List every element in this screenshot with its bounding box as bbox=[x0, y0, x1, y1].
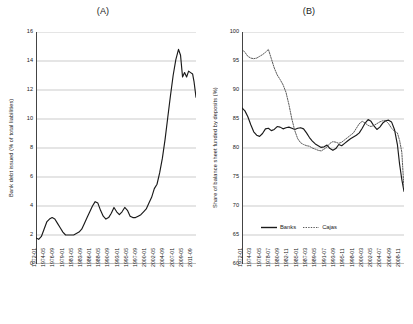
y-tick-label: 10 bbox=[20, 115, 33, 121]
x-tick-label: 1990-09 bbox=[104, 248, 110, 267]
x-tick-label: 1993-01 bbox=[114, 248, 120, 267]
x-tick-label: 2002-05 bbox=[150, 248, 156, 267]
y-tick-label: 6 bbox=[20, 173, 33, 179]
x-tick-label: 1976-09 bbox=[49, 248, 55, 267]
x-tick-label: 2007-01 bbox=[169, 248, 175, 267]
y-tick-label: 85 bbox=[226, 115, 239, 121]
x-tick-label: 1976-05 bbox=[256, 248, 262, 267]
x-tick-label: 1987-03 bbox=[302, 248, 308, 267]
x-tick-label: 2004-09 bbox=[159, 248, 165, 267]
x-tick-label: 2011-09 bbox=[187, 248, 193, 267]
x-tick-label: 1986-01 bbox=[86, 248, 92, 267]
x-tick-label: 1991-07 bbox=[321, 248, 327, 267]
x-tick-label: 1995-05 bbox=[123, 248, 129, 267]
legend-item-cajas: Cajas bbox=[303, 224, 337, 230]
panel-b-x-tick-labels: 1972-011974-031976-051978-071980-091982-… bbox=[242, 267, 404, 307]
panel-b: (B) Share of balance sheet funded by dep… bbox=[206, 0, 412, 324]
y-tick-label: 70 bbox=[226, 202, 239, 208]
panel-a-title: (A) bbox=[0, 6, 206, 16]
x-tick-label: 1997-09 bbox=[132, 248, 138, 267]
panel-b-y-axis-label: Share of balance sheet funded by deposit… bbox=[212, 32, 218, 264]
legend-label: Banks bbox=[280, 224, 296, 230]
legend-line-swatch bbox=[261, 225, 277, 230]
x-tick-label: 2000-03 bbox=[358, 248, 364, 267]
panel-a: (A) Bank debt issued (% of total liabili… bbox=[0, 0, 206, 324]
x-tick-label: 2004-07 bbox=[376, 248, 382, 267]
x-tick-label: 1988-05 bbox=[95, 248, 101, 267]
x-tick-label: 1974-03 bbox=[246, 248, 252, 267]
x-tick-label: 1983-09 bbox=[77, 248, 83, 267]
series-line-bank debt issued bbox=[36, 49, 196, 239]
x-tick-label: 1995-11 bbox=[339, 248, 345, 267]
y-tick-label: 65 bbox=[226, 231, 239, 237]
x-tick-label: 1989-05 bbox=[311, 248, 317, 267]
y-tick-label: 8 bbox=[20, 144, 33, 150]
y-tick-label: 2 bbox=[20, 231, 33, 237]
panel-a-plot-area bbox=[36, 32, 196, 264]
x-tick-label: 2002-05 bbox=[367, 248, 373, 267]
figure-root: (A) Bank debt issued (% of total liabili… bbox=[0, 0, 413, 324]
panel-a-x-tick-labels: 1972-011974-051976-091979-011981-051983-… bbox=[36, 267, 196, 307]
x-tick-label: 1974-05 bbox=[40, 248, 46, 267]
y-tick-label: 14 bbox=[20, 57, 33, 63]
panel-b-title: (B) bbox=[206, 6, 412, 16]
x-tick-label: 1972-01 bbox=[237, 248, 243, 267]
x-tick-label: 2008-11 bbox=[395, 248, 401, 267]
y-tick-label: 12 bbox=[20, 86, 33, 92]
x-tick-label: 1982-11 bbox=[283, 248, 289, 267]
y-tick-label: 90 bbox=[226, 86, 239, 92]
x-tick-label: 2000-01 bbox=[141, 248, 147, 267]
y-tick-label: 95 bbox=[226, 57, 239, 63]
y-tick-label: 16 bbox=[20, 28, 33, 34]
x-tick-label: 1981-05 bbox=[68, 248, 74, 267]
x-tick-label: 1980-09 bbox=[274, 248, 280, 267]
x-tick-label: 1978-07 bbox=[265, 248, 271, 267]
x-tick-label: 2006-09 bbox=[386, 248, 392, 267]
x-tick-label: 1979-01 bbox=[59, 248, 65, 267]
panel-a-y-axis-label: Bank debt issued (% of total liabilities… bbox=[8, 32, 14, 264]
y-tick-label: 100 bbox=[226, 28, 239, 34]
legend-label: Cajas bbox=[322, 224, 337, 230]
legend-item-banks: Banks bbox=[261, 224, 296, 230]
y-tick-label: 75 bbox=[226, 173, 239, 179]
y-tick-label: 80 bbox=[226, 144, 239, 150]
x-tick-label: 1993-09 bbox=[330, 248, 336, 267]
x-tick-label: 1972-01 bbox=[31, 248, 37, 267]
x-tick-label: 1998-01 bbox=[349, 248, 355, 267]
panel-b-legend: BanksCajas bbox=[261, 224, 337, 230]
x-tick-label: 1985-01 bbox=[293, 248, 299, 267]
y-tick-label: 4 bbox=[20, 202, 33, 208]
x-tick-label: 2009-05 bbox=[178, 248, 184, 267]
legend-line-swatch bbox=[303, 225, 319, 230]
